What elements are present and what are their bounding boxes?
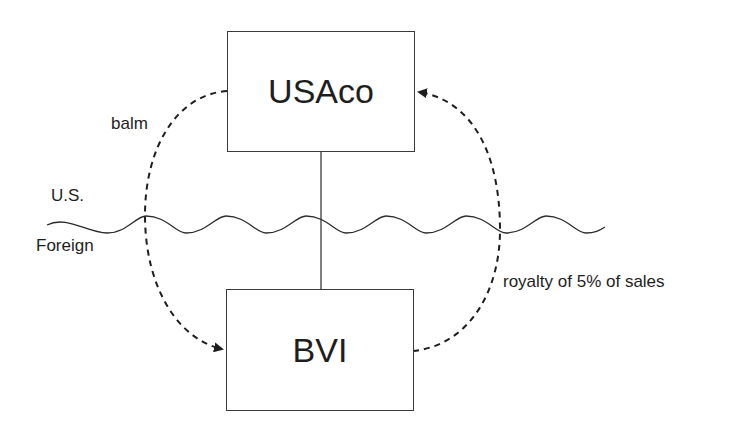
us-region-label: U.S. [51, 186, 84, 206]
usaco-entity-box: USAco [227, 31, 415, 152]
border-wave [47, 216, 605, 233]
bvi-label: BVI [293, 331, 348, 370]
royalty-label: royalty of 5% of sales [503, 272, 665, 292]
bvi-entity-box: BVI [226, 289, 414, 411]
balm-flow-arrow [145, 91, 227, 349]
usaco-label: USAco [268, 72, 374, 111]
foreign-region-label: Foreign [36, 236, 94, 256]
balm-label: balm [111, 114, 148, 134]
royalty-flow-arrow [413, 92, 500, 351]
